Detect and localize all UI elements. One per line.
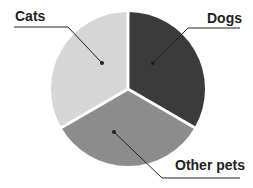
label-other-pets: Other pets: [175, 157, 245, 173]
label-dogs: Dogs: [207, 10, 242, 26]
label-cats: Cats: [15, 8, 45, 24]
